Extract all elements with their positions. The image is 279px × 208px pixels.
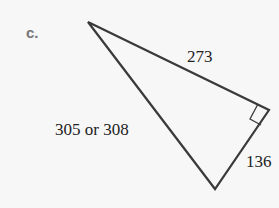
side-label-left: 305 or 308 — [55, 120, 129, 140]
right-triangle — [0, 0, 279, 208]
side-label-right: 136 — [246, 152, 272, 172]
side-label-top: 273 — [187, 47, 213, 67]
triangle-diagram: c. 273 305 or 308 136 — [0, 0, 279, 208]
right-angle-marker — [250, 104, 261, 125]
